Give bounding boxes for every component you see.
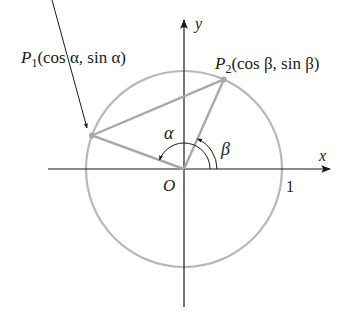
unit-circle-diagram: y x O 1 P1(cos α, sin α) P2(cos β, sin β…: [0, 0, 358, 319]
segments: [92, 79, 224, 169]
x-axis-label: x: [318, 147, 326, 164]
origin-label: O: [163, 176, 175, 195]
y-axis-label: y: [193, 15, 203, 33]
p1-label: P1(cos α, sin α): [20, 48, 126, 70]
unit-tick-label: 1: [286, 178, 294, 195]
beta-label: β: [220, 139, 230, 159]
p1-label-coords: (cos α, sin α): [37, 48, 126, 67]
p1-label-main: P: [20, 48, 31, 67]
p2-label-main: P: [214, 54, 225, 73]
segment-p1-p2: [92, 79, 224, 135]
alpha-label: α: [164, 123, 174, 143]
beta-arc: [197, 139, 217, 169]
p2-label: P2(cos β, sin β): [214, 54, 320, 76]
point-p2: [221, 76, 227, 82]
point-p1: [89, 132, 95, 138]
p2-label-coords: (cos β, sin β): [231, 54, 319, 73]
